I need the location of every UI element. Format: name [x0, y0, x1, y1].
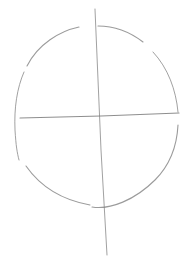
sketch-canvas	[0, 0, 190, 277]
head-construction-sketch	[0, 0, 190, 277]
vertical-guide-line	[95, 9, 107, 255]
